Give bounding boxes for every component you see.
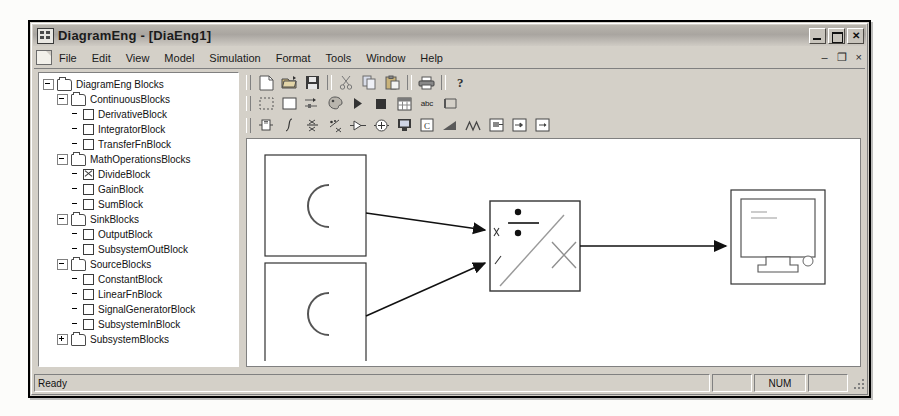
stop-square-icon[interactable] — [370, 94, 392, 114]
subsystem-block-icon[interactable] — [485, 115, 507, 135]
tree-item-diagrameng blocks[interactable]: DiagramEng Blocks — [43, 77, 238, 92]
collapse-minus-icon[interactable] — [43, 79, 54, 90]
open-folder-icon[interactable] — [278, 73, 300, 93]
subsystem-out-block-icon[interactable] — [531, 115, 553, 135]
toolbar-grip[interactable] — [246, 75, 251, 90]
abc-text-icon[interactable]: abc — [416, 94, 438, 114]
constant-block-1[interactable] — [265, 155, 366, 256]
derivative-block-icon[interactable] — [255, 115, 277, 135]
tree-item-mathoperationsblocks[interactable]: MathOperationsBlocks — [43, 152, 238, 167]
tree-item-constantblock[interactable]: ConstantBlock — [43, 272, 238, 287]
print-icon[interactable] — [415, 73, 437, 93]
constant-block-icon[interactable]: C — [416, 115, 438, 135]
tree-item-label: SubsystemInBlock — [98, 319, 180, 330]
divide-block[interactable] — [490, 201, 580, 291]
status-cell-3 — [808, 374, 848, 392]
tree-item-integratorblock[interactable]: IntegratorBlock — [43, 122, 238, 137]
tree-item-derivativeblock[interactable]: DerivativeBlock — [43, 107, 238, 122]
palette-icon[interactable] — [324, 94, 346, 114]
annotate-icon[interactable] — [439, 94, 461, 114]
tree-item-label: SubsystemOutBlock — [98, 244, 188, 255]
tree-item-subsystemblocks[interactable]: SubsystemBlocks — [43, 332, 238, 347]
linear-fn-block-icon[interactable] — [439, 115, 461, 135]
menu-help[interactable]: Help — [418, 51, 445, 65]
menu-model[interactable]: Model — [162, 51, 196, 65]
tree-item-gainblock[interactable]: GainBlock — [43, 182, 238, 197]
tree-scroll-region[interactable]: DiagramEng BlocksContinuousBlocksDerivat… — [39, 73, 238, 366]
connection-const2-to-divide[interactable] — [366, 263, 485, 316]
toolbar-grip[interactable] — [246, 118, 251, 133]
tree-item-subsysteminblock[interactable]: SubsystemInBlock — [43, 317, 238, 332]
block-icon — [83, 109, 94, 120]
block-icon — [83, 229, 94, 240]
output-block-icon[interactable] — [393, 115, 415, 135]
menu-tools[interactable]: Tools — [324, 51, 354, 65]
tree-item-outputblock[interactable]: OutputBlock — [43, 227, 238, 242]
transfer-fn-block-icon[interactable] — [301, 115, 323, 135]
collapse-minus-icon[interactable] — [57, 94, 68, 105]
menu-simulation[interactable]: Simulation — [207, 51, 262, 65]
block-library-tree-panel[interactable]: DiagramEng BlocksContinuousBlocksDerivat… — [38, 72, 239, 367]
tree-item-signalgeneratorblock[interactable]: SignalGeneratorBlock — [43, 302, 238, 317]
menu-format[interactable]: Format — [274, 51, 313, 65]
expand-plus-icon[interactable] — [57, 334, 68, 345]
save-disk-icon[interactable] — [301, 73, 323, 93]
menu-edit[interactable]: Edit — [90, 51, 113, 65]
menu-view[interactable]: View — [124, 51, 152, 65]
title-bar[interactable]: DiagramEng - [DiaEng1] ✕ — [33, 25, 866, 46]
menu-window[interactable]: Window — [364, 51, 407, 65]
tree-spacer — [71, 305, 80, 314]
folder-icon — [71, 154, 86, 166]
tree-item-label: IntegratorBlock — [98, 124, 165, 135]
connection-const1-to-divide[interactable] — [366, 213, 485, 230]
tree-item-subsystemoutblock[interactable]: SubsystemOutBlock — [43, 242, 238, 257]
select-dashed-rect-icon[interactable] — [255, 94, 277, 114]
mdi-restore-button[interactable]: ❐ — [837, 52, 847, 63]
close-button[interactable]: ✕ — [847, 28, 864, 44]
paste-icon[interactable] — [381, 73, 403, 93]
connect-signal-icon[interactable] — [301, 94, 323, 114]
gain-block-icon[interactable] — [347, 115, 369, 135]
divide-block-icon[interactable] — [324, 115, 346, 135]
mdi-close-button[interactable]: × — [856, 52, 862, 63]
new-file-icon[interactable] — [255, 73, 277, 93]
maximize-button[interactable] — [828, 28, 845, 44]
cut-scissors-icon[interactable] — [335, 73, 357, 93]
mdi-minimize-button[interactable]: – — [821, 52, 827, 63]
signal-generator-block-icon[interactable] — [462, 115, 484, 135]
block-icon — [83, 199, 94, 210]
block-icon — [83, 139, 94, 150]
diagram-canvas[interactable] — [247, 139, 860, 366]
tree-item-divideblock[interactable]: DivideBlock — [43, 167, 238, 182]
toolbar-grip[interactable] — [246, 96, 251, 111]
sum-block-icon[interactable] — [370, 115, 392, 135]
tree-item-sinkblocks[interactable]: SinkBlocks — [43, 212, 238, 227]
resize-grip[interactable] — [851, 376, 865, 390]
output-block[interactable] — [731, 190, 825, 284]
tree-item-continuousblocks[interactable]: ContinuousBlocks — [43, 92, 238, 107]
document-icon[interactable] — [36, 50, 52, 65]
subsystem-in-block-icon[interactable] — [508, 115, 530, 135]
minimize-icon — [813, 38, 821, 40]
diagram-canvas-panel[interactable] — [246, 138, 861, 367]
menu-bar: File Edit View Model Simulation Format T… — [33, 48, 866, 67]
tree-spacer — [71, 110, 80, 119]
constant-block-2[interactable] — [265, 263, 366, 361]
tree-item-linearfnblock[interactable]: LinearFnBlock — [43, 287, 238, 302]
abc-label: abc — [421, 99, 433, 108]
minimize-button[interactable] — [809, 28, 826, 44]
maximize-icon — [832, 32, 843, 43]
tree-item-transferfnblock[interactable]: TransferFnBlock — [43, 137, 238, 152]
rectangle-icon[interactable] — [278, 94, 300, 114]
collapse-minus-icon[interactable] — [57, 259, 68, 270]
collapse-minus-icon[interactable] — [57, 214, 68, 225]
grid-table-icon[interactable] — [393, 94, 415, 114]
help-question-icon[interactable]: ? — [449, 73, 471, 93]
tree-item-sourceblocks[interactable]: SourceBlocks — [43, 257, 238, 272]
run-play-icon[interactable] — [347, 94, 369, 114]
integrator-block-icon[interactable] — [278, 115, 300, 135]
tree-item-sumblock[interactable]: SumBlock — [43, 197, 238, 212]
copy-icon[interactable] — [358, 73, 380, 93]
menu-file[interactable]: File — [57, 51, 79, 65]
collapse-minus-icon[interactable] — [57, 154, 68, 165]
